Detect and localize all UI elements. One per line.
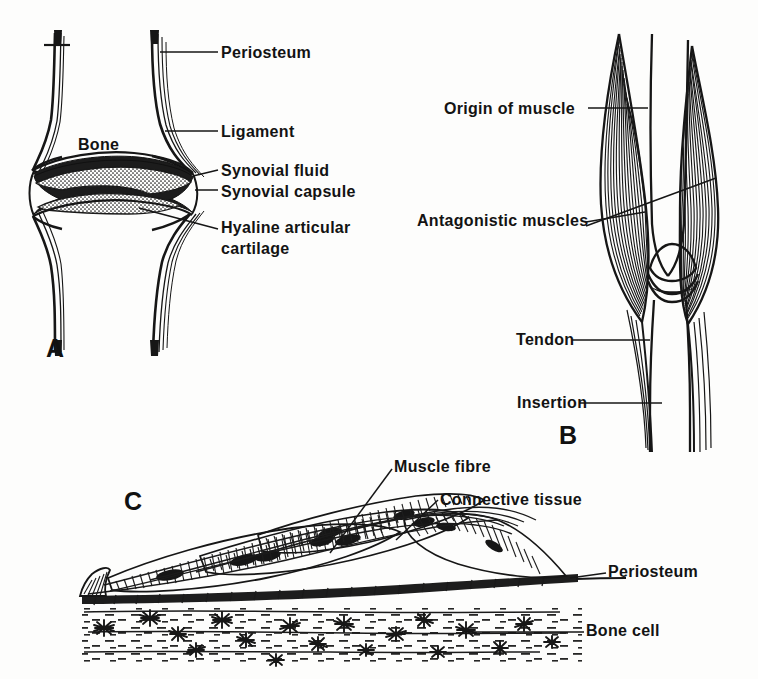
bone-right-lower [150, 211, 204, 356]
panel-letter-b: B [559, 421, 578, 450]
figure-sheet: Periosteum Ligament Synovial fluid Synov… [0, 0, 758, 679]
synovial-joint-cavity [30, 152, 198, 216]
muscle-left-belly [600, 34, 652, 452]
panel-b-artwork [572, 34, 718, 452]
label-ligament: Ligament [221, 123, 295, 141]
label-tendon: Tendon [516, 331, 574, 349]
label-antagonistic-muscles: Antagonistic muscles [417, 212, 588, 230]
label-bone: Bone [78, 136, 119, 154]
label-connective-tissue: Connective tissue [440, 491, 582, 509]
label-synovial-fluid: Synovial fluid [221, 162, 329, 180]
label-insertion: Insertion [517, 394, 587, 412]
bone-b-lower [650, 300, 690, 452]
label-periosteum-c: Periosteum [608, 563, 698, 581]
panel-letter-a: A [46, 334, 65, 363]
label-periosteum-a: Periosteum [221, 44, 311, 62]
label-bone-cell: Bone cell [586, 622, 660, 640]
label-muscle-fibre: Muscle fibre [394, 458, 491, 476]
muscle-right-belly [680, 46, 718, 452]
label-hyaline-articular: Hyaline articular [221, 219, 351, 237]
label-origin-of-muscle: Origin of muscle [444, 100, 575, 118]
panel-letter-c: C [124, 487, 143, 516]
panel-a-artwork [30, 30, 219, 356]
label-synovial-capsule: Synovial capsule [221, 183, 356, 201]
bone-matrix-layer [82, 608, 582, 666]
bone-left-upper [33, 30, 70, 174]
label-hyaline-cartilage: cartilage [221, 240, 290, 258]
